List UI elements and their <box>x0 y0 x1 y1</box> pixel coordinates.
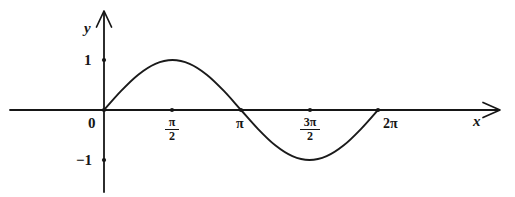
sine-graph-figure: y x 0 1 −1 π 2 π 3π 2 2π <box>0 0 515 197</box>
origin-label: 0 <box>88 116 96 131</box>
x-tick-label-pi-over-2: π 2 <box>165 116 179 142</box>
fraction-denominator: 2 <box>300 130 320 142</box>
x-tick-label-2pi: 2π <box>383 117 398 131</box>
y-tick-label-negative-one: −1 <box>76 153 92 168</box>
point-marker-origin <box>102 108 106 112</box>
scan-artifact-left <box>168 0 170 9</box>
point-marker-2pi <box>376 108 380 112</box>
point-marker-3pi-over-2 <box>308 108 312 112</box>
point-marker-pi-over-2 <box>170 108 174 112</box>
point-marker-pi <box>239 108 243 112</box>
fraction-denominator: 2 <box>165 130 179 142</box>
point-marker-y-negative-one <box>102 158 106 162</box>
scan-artifact-right <box>206 0 208 9</box>
fraction-numerator: 3π <box>300 116 320 128</box>
x-axis <box>10 103 500 118</box>
point-marker-y-one <box>102 58 106 62</box>
fraction-numerator: π <box>165 116 179 128</box>
y-axis <box>97 11 112 192</box>
x-tick-label-3pi-over-2: 3π 2 <box>300 116 320 142</box>
x-axis-label: x <box>473 114 481 129</box>
x-tick-label-pi: π <box>236 117 244 131</box>
y-tick-label-one: 1 <box>84 53 92 68</box>
y-axis-label: y <box>84 21 91 36</box>
